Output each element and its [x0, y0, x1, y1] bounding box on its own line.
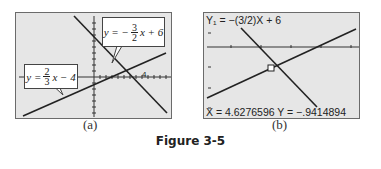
- numerator: 3: [131, 23, 138, 33]
- caption-b: (b): [272, 117, 287, 133]
- graph-panel-a: y = − 3 2 x + 6 y = 2 3 x − 4 4: [15, 12, 172, 119]
- denominator: 3: [44, 77, 49, 86]
- eq-suffix: x − 4: [52, 71, 75, 83]
- tick-label: 4: [142, 70, 146, 79]
- graph-b-plot: [204, 13, 361, 120]
- eq-prefix: y =: [26, 71, 41, 83]
- caption-a: (a): [83, 117, 97, 133]
- eq-suffix: x + 6: [140, 26, 163, 38]
- equation-label-decreasing: y = − 3 2 x + 6: [102, 17, 165, 47]
- figure-title: Figure 3-5: [0, 134, 381, 148]
- fraction: 3 2: [131, 23, 138, 42]
- equation-label-increasing: y = 2 3 x − 4: [24, 64, 78, 89]
- eq-prefix: y = −: [104, 26, 129, 38]
- fraction: 2 3: [43, 67, 50, 86]
- denominator: 2: [132, 33, 137, 42]
- function-label: Y₁ = −(3/2)X + 6: [206, 14, 281, 26]
- graph-panel-b: Y₁ = −(3/2)X + 6 X = 4.6276596 Y = −.941…: [203, 12, 360, 119]
- line-decreasing: [241, 28, 317, 107]
- line-increasing: [207, 29, 356, 98]
- trace-cursor: [268, 65, 274, 71]
